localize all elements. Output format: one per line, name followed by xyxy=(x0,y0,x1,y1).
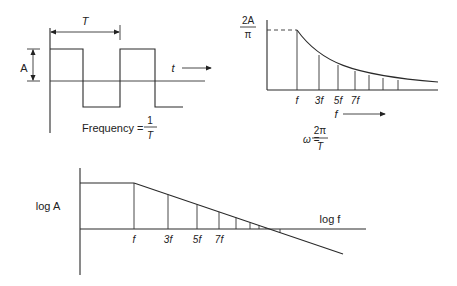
square-wave-panel: T A t Frequency = 1 T xyxy=(20,15,211,141)
frequency-denominator: T xyxy=(147,130,154,141)
peak-numerator: 2A xyxy=(242,15,255,26)
amplitude-label: A xyxy=(20,62,28,74)
period-label: T xyxy=(82,15,90,27)
harmonic-lines xyxy=(297,30,398,90)
log-harmonic-label-7: 7f xyxy=(215,234,225,245)
log-harmonic-label-3: 3f xyxy=(164,234,174,245)
frequency-axis-label: f xyxy=(334,108,338,120)
peak-denominator: π xyxy=(245,29,252,40)
frequency-label: Frequency = xyxy=(82,122,143,134)
time-label: t xyxy=(171,62,175,74)
log-x-label: log f xyxy=(320,213,342,225)
log-harmonic-label-1: f xyxy=(133,234,137,245)
harmonic-label-7: 7f xyxy=(351,95,361,106)
frequency-numerator: 1 xyxy=(147,115,153,126)
harmonic-label-1: f xyxy=(296,95,300,106)
log-harmonic-label-5: 5f xyxy=(193,234,203,245)
omega-numerator: 2π xyxy=(314,125,327,136)
spectrum-envelope xyxy=(297,30,438,82)
omega-denominator: T xyxy=(317,141,324,152)
log-plot-panel: f 3f 5f 7f log A log f xyxy=(36,168,366,275)
log-y-label: log A xyxy=(36,200,61,212)
square-wave-fourier-diagram: T A t Frequency = 1 T f 3f 5f 7f xyxy=(0,0,457,286)
harmonic-label-5: 5f xyxy=(334,95,344,106)
harmonic-label-3: 3f xyxy=(315,95,325,106)
spectrum-panel: f 3f 5f 7f f 2A π ω = 2π T xyxy=(240,15,438,152)
square-wave-trace xyxy=(50,49,183,107)
